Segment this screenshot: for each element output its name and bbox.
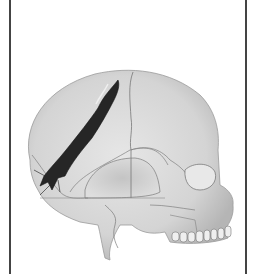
- orbit: [185, 164, 216, 190]
- skull-illustration: [0, 0, 256, 274]
